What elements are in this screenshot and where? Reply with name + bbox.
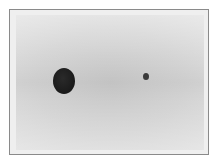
small-dot xyxy=(143,73,149,80)
photograph xyxy=(16,15,204,150)
large-dot xyxy=(53,68,75,94)
